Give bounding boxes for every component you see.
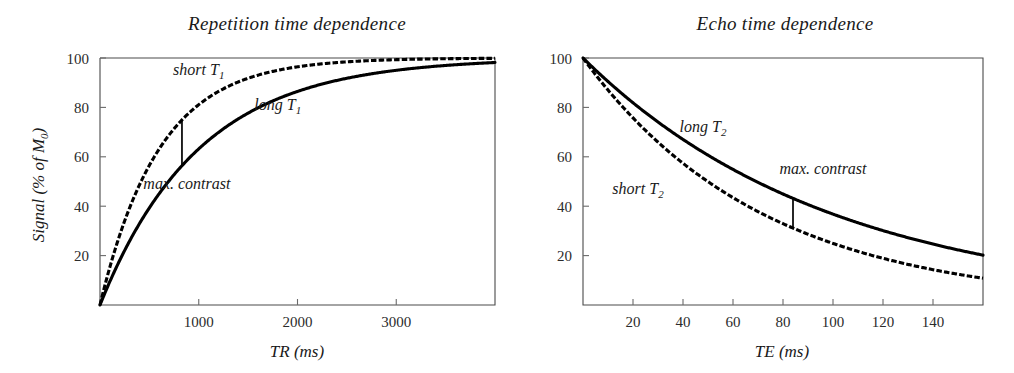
echo-time-chart: Echo time dependence TE (ms) 20406080100… [507,0,1014,373]
series-label-long-t1: long T1 [254,96,301,116]
x-tick-label: 140 [922,314,945,330]
y-tick-label: 80 [557,100,572,116]
y-tick-label: 80 [74,100,89,116]
x-axis-label-tr: TR (ms) [270,342,325,361]
series-label-short-t1: short T1 [173,61,224,81]
y-tick-label: 40 [74,199,89,215]
x-tick-label: 60 [726,314,741,330]
curve-long-t2 [583,58,983,255]
repetition-time-chart: Repetition time dependence Signal (% of … [0,0,507,373]
y-tick-label: 60 [557,149,572,165]
chart-title-repetition-time: Repetition time dependence [187,13,406,34]
y-tick-label: 100 [550,51,573,67]
y-tick-label: 100 [67,51,90,67]
x-tick-label: 120 [872,314,895,330]
x-tick-label: 2000 [283,314,313,330]
x-axis-label-te: TE (ms) [755,342,810,361]
y-axis-label-signal: Signal (% of M0) [29,127,50,242]
tick-labels-repetition-time: 20406080100100020003000 [67,51,412,331]
series-label-long-t2: long T2 [680,118,727,138]
y-tick-label: 60 [74,149,89,165]
max-contrast-label: max. contrast [143,175,231,192]
annotations-echo-time: max. contrast [779,160,867,227]
x-tick-label: 20 [626,314,641,330]
max-contrast-label: max. contrast [779,160,867,177]
chart-panel-repetition-time: Repetition time dependence Signal (% of … [0,0,507,373]
y-tick-label: 40 [557,199,572,215]
series-label-short-t2: short T2 [612,180,664,200]
chart-title-echo-time: Echo time dependence [696,13,874,34]
y-tick-label: 20 [74,248,89,264]
x-tick-label: 1000 [184,314,214,330]
chart-panel-echo-time: Echo time dependence TE (ms) 20406080100… [507,0,1014,373]
x-tick-label: 3000 [381,314,411,330]
y-tick-label: 20 [557,248,572,264]
x-tick-label: 40 [676,314,691,330]
x-tick-label: 80 [776,314,791,330]
mri-signal-figure: Repetition time dependence Signal (% of … [0,0,1014,373]
x-tick-label: 100 [822,314,845,330]
